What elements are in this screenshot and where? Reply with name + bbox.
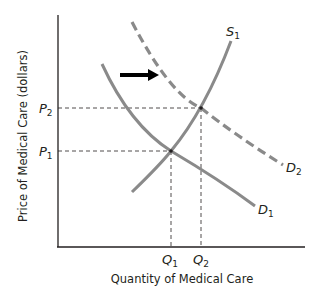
label-s1: S1 bbox=[226, 24, 240, 41]
supply-demand-chart: P2 P1 Q1 Q2 S1 D1 D2 Quantity of Medical… bbox=[0, 0, 321, 297]
equilibrium-point-1 bbox=[169, 149, 173, 153]
equilibrium-point-2 bbox=[199, 106, 203, 110]
guide-lines bbox=[58, 108, 201, 247]
y-tick-p1: P1 bbox=[39, 144, 53, 161]
label-d2: D2 bbox=[286, 160, 302, 177]
label-d1: D1 bbox=[258, 202, 274, 219]
x-tick-q1: Q1 bbox=[162, 252, 178, 269]
shift-arrow-icon bbox=[120, 69, 159, 81]
supply-curve-s1 bbox=[132, 41, 231, 192]
y-axis-title: Price of Medical Care (dollars) bbox=[16, 50, 30, 222]
y-tick-p2: P2 bbox=[39, 101, 53, 118]
demand-curve-d1 bbox=[102, 64, 255, 206]
x-tick-q2: Q2 bbox=[193, 252, 209, 269]
x-axis-title: Quantity of Medical Care bbox=[111, 272, 253, 286]
